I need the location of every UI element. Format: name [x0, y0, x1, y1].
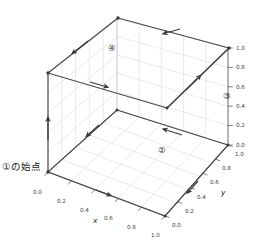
axis-x-spine: [45, 172, 165, 220]
y-tick-5: 1.0: [235, 151, 244, 157]
z-tick-2: 0.4: [236, 103, 245, 109]
y-tick-0: 0.0: [172, 222, 181, 228]
segment-3-label: ③: [223, 91, 231, 101]
z-tick-0: 0.0: [236, 142, 245, 148]
start-point-label: ①の始点: [2, 159, 41, 173]
y-tick-2: 0.4: [197, 194, 206, 200]
segment-4-label: ④: [108, 43, 116, 53]
y-tick-3: 0.6: [210, 179, 219, 185]
segment-2-label: ②: [158, 145, 166, 155]
path-arrows-segment-2: [87, 125, 198, 195]
x-tick-3: 0.6: [104, 215, 113, 221]
z-tick-3: 0.6: [236, 84, 245, 90]
grid-pane-bottom: [48, 110, 228, 216]
plot-figure: 0.0 0.2 0.4 0.6 0.8 1.0 x 0.0 0.2 0.4 0.…: [0, 0, 266, 241]
y-tick-4: 0.8: [222, 165, 231, 171]
grid-pane-left: [48, 18, 117, 172]
x-tick-2: 0.4: [80, 207, 89, 213]
x-tick-0: 0.0: [33, 189, 42, 195]
y-axis-label: y: [221, 188, 225, 197]
path-segment-4: [48, 18, 229, 108]
grid-pane-right: [117, 18, 228, 145]
y-tick-1: 0.2: [185, 208, 194, 214]
x-tick-5: 1.0: [151, 232, 160, 238]
x-tick-1: 0.2: [57, 198, 66, 204]
z-tick-4: 0.8: [236, 64, 245, 70]
axis-y-spine: [165, 145, 233, 218]
path-segment-2: [48, 110, 228, 216]
plot-canvas: [0, 0, 266, 241]
z-tick-1: 0.2: [236, 122, 245, 128]
x-axis-label: x: [93, 216, 97, 225]
z-tick-5: 1.0: [236, 45, 245, 51]
x-tick-4: 0.8: [127, 224, 136, 230]
